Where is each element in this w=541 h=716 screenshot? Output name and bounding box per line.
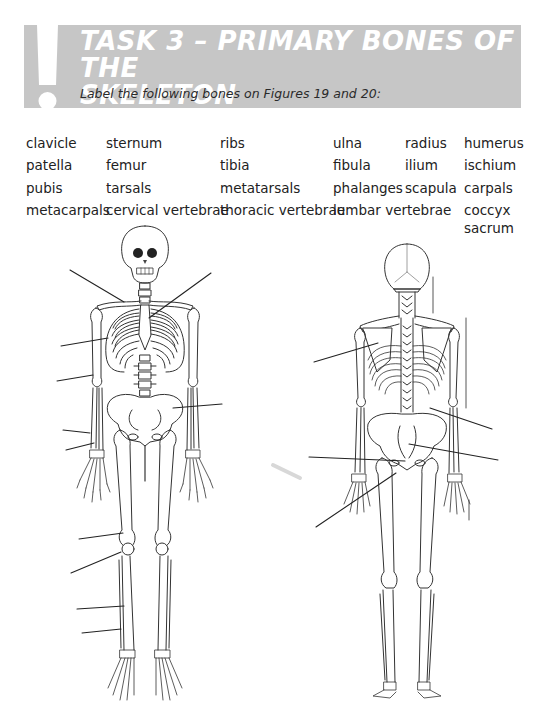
smudge <box>273 465 300 478</box>
anterior-skeleton <box>57 226 222 700</box>
posterior-skeleton <box>273 244 498 698</box>
skeleton-figures <box>0 0 541 716</box>
